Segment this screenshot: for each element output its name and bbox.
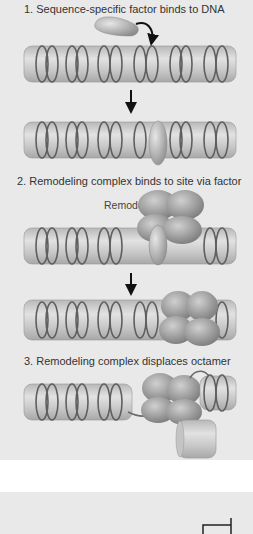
chromatin-fiber-1 xyxy=(24,46,236,82)
transcription-factor-icon xyxy=(95,17,139,36)
binding-arrow-icon xyxy=(136,23,152,40)
chromatin-fiber-3 xyxy=(24,190,236,265)
chromatin-fiber-4 xyxy=(24,291,236,346)
chromatin-fiber-5 xyxy=(24,371,236,425)
chromatin-fiber-2 xyxy=(24,121,236,165)
remodeling-complex-icon xyxy=(141,373,202,425)
histone-octamer-icon xyxy=(176,420,216,458)
bracket-icon xyxy=(203,518,231,534)
chromatin-remodeling-illustration xyxy=(0,0,253,534)
